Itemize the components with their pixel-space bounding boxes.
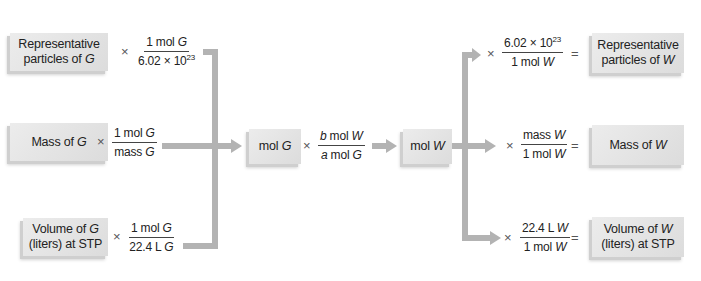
denominator: a mol G xyxy=(321,146,362,162)
denominator: 1 mol W xyxy=(511,53,554,69)
fraction-molar-mass-g: 1 mol G mass G xyxy=(112,126,157,159)
fraction-avogadro-w: 6.02 × 1023 1 mol W xyxy=(502,36,563,69)
connector-middle-right xyxy=(462,143,486,149)
equals-sign: = xyxy=(571,46,579,61)
multiply-sign: × xyxy=(487,46,495,61)
arrow-right-icon xyxy=(386,139,397,153)
connector-bottom-left xyxy=(183,243,218,249)
denominator: 1 mol W xyxy=(523,145,566,161)
multiply-sign: × xyxy=(504,230,512,245)
box-label: (liters) at STP xyxy=(29,237,102,251)
numerator: mass W xyxy=(521,128,567,145)
numerator: 1 mol G xyxy=(112,126,157,143)
equals-sign: = xyxy=(571,138,579,153)
box-label: Mass of xyxy=(31,135,77,149)
box-volume-w: Volume of W (liters) at STP xyxy=(592,217,684,257)
numerator: 1 mol G xyxy=(144,35,189,52)
numerator: 6.02 × 1023 xyxy=(502,36,563,53)
box-label: Volume of xyxy=(32,222,89,236)
multiply-sign: × xyxy=(97,134,105,149)
box-particles-w: Representative particles of W xyxy=(592,33,684,73)
numerator: b mol W xyxy=(318,129,365,146)
variable-w: W xyxy=(433,139,445,153)
fraction-molar-volume-w: 22.4 L W 1 mol W xyxy=(520,221,570,254)
arrow-right-icon xyxy=(490,231,501,245)
arrow-right-icon xyxy=(485,139,496,153)
variable-g: G xyxy=(77,135,87,149)
variable-g: G xyxy=(282,139,292,153)
box-label: mol xyxy=(259,139,282,153)
fraction-molar-mass-w: mass W 1 mol W xyxy=(521,128,567,161)
box-label: particles of xyxy=(24,52,85,66)
box-particles-g: Representative particles of G xyxy=(10,33,108,71)
box-label: (liters) at STP xyxy=(601,237,674,251)
numerator: 22.4 L W xyxy=(520,221,570,238)
multiply-sign: × xyxy=(121,44,129,59)
multiply-sign: × xyxy=(303,138,311,153)
arrow-right-icon xyxy=(231,139,242,153)
numerator: 1 mol G xyxy=(129,221,174,238)
box-label: Representative xyxy=(18,37,99,51)
variable-g: G xyxy=(85,52,95,66)
box-label: Mass of xyxy=(609,138,655,152)
variable-w: W xyxy=(663,53,675,67)
connector-mol-ratio xyxy=(372,143,387,149)
box-mol-g: mol G xyxy=(249,129,301,164)
variable-w: W xyxy=(655,138,667,152)
fraction-mole-ratio: b mol W a mol G xyxy=(318,129,365,162)
equals-sign: = xyxy=(571,230,579,245)
box-volume-g: Volume of G (liters) at STP xyxy=(23,218,108,256)
box-label: Representative xyxy=(597,38,678,52)
box-label: Volume of xyxy=(604,222,661,236)
box-mass-g: Mass of G xyxy=(10,123,108,161)
variable-g: G xyxy=(89,222,99,236)
box-label: mol xyxy=(410,139,433,153)
box-mass-w: Mass of W xyxy=(592,125,684,165)
box-label: particles of xyxy=(602,53,663,67)
connector-middle-left xyxy=(162,143,232,149)
multiply-sign: × xyxy=(506,138,514,153)
denominator: 1 mol W xyxy=(524,238,567,254)
denominator: mass G xyxy=(114,143,154,159)
box-mol-w: mol W xyxy=(403,129,452,164)
connector-vertical-left xyxy=(212,49,218,249)
denominator: 6.02 × 1023 xyxy=(138,52,195,68)
fraction-molar-volume-g: 1 mol G 22.4 L G xyxy=(129,221,174,254)
arrow-right-icon xyxy=(472,48,481,62)
multiply-sign: × xyxy=(113,229,121,244)
denominator: 22.4 L G xyxy=(129,238,173,254)
fraction-avogadro-g: 1 mol G 6.02 × 1023 xyxy=(138,35,195,68)
variable-w: W xyxy=(661,222,673,236)
connector-bottom-right xyxy=(462,235,491,241)
